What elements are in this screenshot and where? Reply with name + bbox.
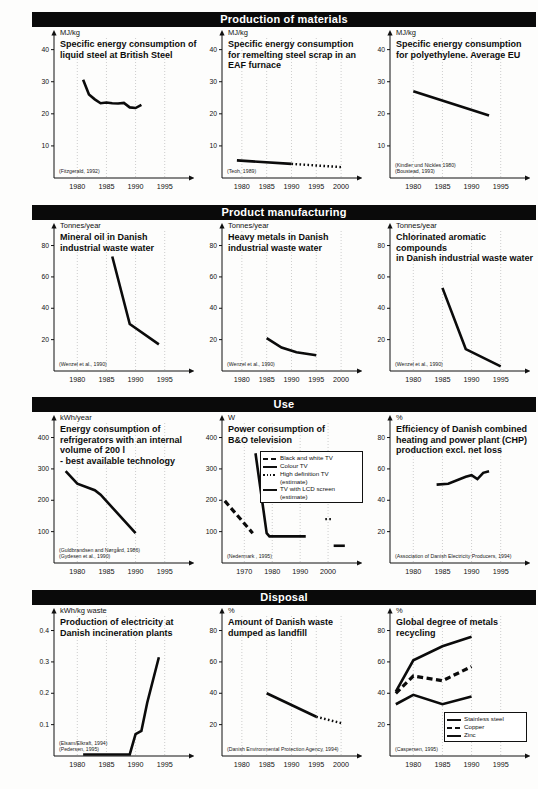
section-header-product-manufacturing: Product manufacturing — [32, 205, 536, 220]
y-axis-tick-label: 400 — [29, 434, 49, 441]
y-axis-tick-label: 60 — [29, 273, 49, 280]
y-axis-tick-label: 40 — [197, 304, 217, 311]
y-axis-tick-label: 40 — [197, 46, 217, 53]
legend-item-label: Stainless steel — [464, 715, 504, 723]
chart-citation: (Nedermark , 1995) — [227, 553, 365, 559]
chart-title: Specific energy consumption for remeltin… — [228, 39, 366, 71]
x-axis-tick-label: 1990 — [459, 375, 485, 384]
x-axis-tick-label: 1990 — [278, 760, 304, 769]
y-axis-tick-label: 60 — [197, 273, 217, 280]
legend-swatch-solid-icon — [263, 486, 277, 493]
x-axis-tick-label: 1990 — [123, 567, 149, 576]
x-axis-tick-label: 1980 — [64, 182, 90, 191]
y-axis-tick-label: 20 — [197, 336, 217, 343]
x-axis-tick-label: 1990 — [287, 567, 313, 576]
x-axis-tick-label: 1990 — [123, 760, 149, 769]
series-line — [225, 501, 253, 533]
chart-citation: (Danish Environmental Protection Agency,… — [227, 746, 365, 752]
y-axis-tick-label: 40 — [197, 689, 217, 696]
x-axis-tick-label: 1990 — [278, 375, 304, 384]
x-axis-tick-label: 1985 — [93, 375, 119, 384]
series-line — [66, 471, 136, 533]
x-axis-tick-label: 1995 — [152, 567, 178, 576]
y-axis-tick-label: 300 — [29, 465, 49, 472]
x-axis-tick-label: 1985 — [429, 760, 455, 769]
y-axis-tick-label: 100 — [197, 528, 217, 535]
y-axis-tick-label: 80 — [29, 242, 49, 249]
y-axis-unit-label: MJ/kg — [228, 28, 248, 37]
legend-item: High definition TV (estimate) — [263, 470, 359, 485]
chart-citation: (Guldbrandsen and Nørgård, 1986) (Gydese… — [59, 547, 197, 559]
series-line — [316, 717, 341, 723]
series-line — [83, 80, 141, 108]
series-line — [413, 91, 489, 115]
section-production-of-materials: Production of materialsMJ/kgSpecific ene… — [0, 12, 538, 204]
y-axis-tick-label: 20 — [197, 721, 217, 728]
chart-citation: (Wenzel et al., 1990) — [227, 361, 365, 367]
chart-title: Specific energy consumption of liquid st… — [60, 39, 198, 60]
x-axis-tick-label: 1980 — [64, 567, 90, 576]
legend-item: Stainless steel — [447, 715, 523, 723]
y-axis-unit-label: kWh/year — [60, 413, 92, 422]
chart-citation: (Elsam/Elkraft, 1994) (Pedersen, 1995) — [59, 740, 197, 752]
y-axis-tick-label: 20 — [29, 110, 49, 117]
section-header-label: Use — [274, 397, 295, 412]
y-axis-unit-label: % — [396, 413, 403, 422]
y-axis-tick-label: 100 — [29, 528, 49, 535]
y-axis-tick-label: 40 — [365, 304, 385, 311]
series-line — [267, 693, 317, 717]
x-axis-tick-label: 1990 — [459, 182, 485, 191]
y-axis-tick-label: 300 — [197, 465, 217, 472]
legend-item: Colour TV — [263, 462, 359, 470]
y-axis-tick-label: 10 — [197, 142, 217, 149]
x-axis-tick-label: 1995 — [488, 760, 514, 769]
x-axis-tick-label: 1985 — [254, 375, 280, 384]
y-axis-tick-label: 60 — [197, 658, 217, 665]
chart-refrigerators: kWh/yearEnergy consumption of refrigerat… — [22, 415, 194, 585]
chart-bo-television: WPower consumption of B&O television(Ned… — [190, 415, 362, 585]
legend-item-label: Black and white TV — [280, 454, 333, 462]
x-axis-tick-label: 1990 — [459, 760, 485, 769]
y-axis-tick-label: 400 — [197, 434, 217, 441]
x-axis-tick-label: 1980 — [259, 567, 285, 576]
chart-title: Mineral oil in Danish industrial waste w… — [60, 232, 198, 253]
y-axis-tick-label: 0.1 — [29, 721, 49, 728]
legend-item-label: High definition TV (estimate) — [280, 470, 329, 485]
chart-liquid-steel: MJ/kgSpecific energy consumption of liqu… — [22, 30, 194, 200]
x-axis-tick-label: 1980 — [229, 182, 255, 191]
x-axis-tick-label: 1995 — [488, 182, 514, 191]
series-line — [396, 695, 472, 704]
chart-mineral-oil: Tonnes/yearMineral oil in Danish industr… — [22, 223, 194, 393]
x-axis-tick-label: 1995 — [488, 375, 514, 384]
y-axis-tick-label: 40 — [365, 689, 385, 696]
x-axis-tick-label: 1995 — [152, 375, 178, 384]
x-axis-tick-label: 1990 — [123, 375, 149, 384]
legend-item: TV with LCD screen (estimate) — [263, 485, 359, 500]
y-axis-unit-label: Tonnes/year — [228, 221, 269, 230]
section-header-label: Product manufacturing — [221, 205, 346, 220]
chart-legend: Black and white TVColour TVHigh definiti… — [260, 451, 363, 503]
section-disposal: DisposalkWh/kg wasteProduction of electr… — [0, 590, 538, 782]
section-header-label: Disposal — [260, 590, 307, 605]
legend-swatch-solid-icon — [263, 463, 277, 470]
y-axis-tick-label: 40 — [365, 46, 385, 53]
y-axis-tick-label: 20 — [365, 110, 385, 117]
legend-swatch-solid-icon — [447, 716, 461, 723]
x-axis-tick-label: 1980 — [64, 760, 90, 769]
chart-citation: (Association of Danish Electricity Produ… — [395, 553, 533, 559]
x-axis-tick-label: 1990 — [459, 567, 485, 576]
y-axis-tick-label: 80 — [197, 627, 217, 634]
chart-title: Specific energy consumption for polyethy… — [396, 39, 534, 60]
chart-title: Heavy metals in Danish industrial waste … — [228, 232, 366, 253]
chart-citation: (Kindler und Nickles 1980) (Boustead, 19… — [395, 162, 533, 174]
y-axis-tick-label: 60 — [365, 273, 385, 280]
x-axis-tick-label: 1995 — [488, 567, 514, 576]
legend-item-label: Zinc — [464, 731, 476, 739]
y-axis-unit-label: Tonnes/year — [60, 221, 101, 230]
series-line — [437, 471, 489, 484]
x-axis-tick-label: 1995 — [152, 182, 178, 191]
x-axis-tick-label: 1985 — [429, 182, 455, 191]
y-axis-tick-label: 30 — [197, 78, 217, 85]
y-axis-tick-label: 200 — [29, 496, 49, 503]
x-axis-tick-label: 1980 — [400, 182, 426, 191]
